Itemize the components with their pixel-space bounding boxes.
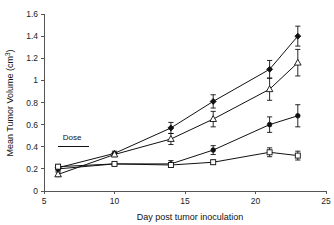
series-filled-diamond <box>55 26 301 171</box>
data-point-marker <box>211 148 216 153</box>
data-point-marker <box>211 160 216 165</box>
chart-figure: 00.20.40.60.811.21.41.6510152025 Dose Da… <box>0 0 334 225</box>
series-line <box>58 63 298 175</box>
data-point-marker <box>210 98 216 104</box>
y-axis-title-close: ) <box>5 49 15 52</box>
x-tick-label: 20 <box>251 196 261 206</box>
annotations-layer: Dose <box>58 133 89 147</box>
data-point-marker <box>168 163 173 168</box>
y-axis-title: Mean Tumor Volume (cm3) <box>4 49 15 156</box>
y-tick-label: 0.6 <box>26 120 38 130</box>
data-series-layer <box>55 26 301 177</box>
tick-labels-layer: 00.20.40.60.811.21.41.6510152025 <box>26 9 331 206</box>
tumor-growth-line-chart: 00.20.40.60.811.21.41.6510152025 Dose Da… <box>0 0 334 225</box>
series-filled-circle <box>56 105 301 171</box>
x-tick-label: 5 <box>42 196 47 206</box>
data-point-marker <box>267 150 272 155</box>
data-point-marker <box>168 136 175 142</box>
data-point-marker <box>210 116 217 122</box>
data-point-marker <box>56 164 61 169</box>
y-axis-title-base: Mean Tumor Volume (cm <box>5 56 15 157</box>
x-tick-label: 10 <box>110 196 120 206</box>
y-tick-label: 0.8 <box>26 98 38 108</box>
y-tick-label: 0 <box>33 186 38 196</box>
series-line <box>58 152 298 166</box>
y-tick-label: 0.2 <box>26 164 38 174</box>
x-axis-title: Day post tumor inoculation <box>137 212 244 222</box>
data-point-marker <box>295 59 302 65</box>
series-line <box>58 36 298 168</box>
data-point-marker <box>295 153 300 158</box>
x-tick-label: 25 <box>321 196 331 206</box>
y-tick-label: 1.4 <box>26 31 38 41</box>
data-point-marker <box>267 122 272 127</box>
data-point-marker <box>112 161 117 166</box>
y-tick-label: 1.2 <box>26 53 38 63</box>
x-tick-label: 15 <box>180 196 190 206</box>
y-tick-label: 1 <box>33 75 38 85</box>
data-point-marker <box>296 113 301 118</box>
data-point-marker <box>168 125 174 131</box>
y-tick-label: 1.6 <box>26 9 38 19</box>
dose-annotation-label: Dose <box>63 133 82 142</box>
y-tick-label: 0.4 <box>26 142 38 152</box>
series-open-triangle <box>55 49 301 176</box>
